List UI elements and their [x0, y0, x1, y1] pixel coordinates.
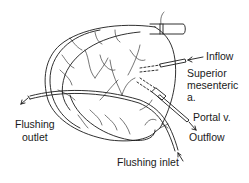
- label-flushing-outlet-1: Flushing: [15, 118, 55, 130]
- label-inflow: Inflow: [206, 50, 233, 62]
- lower-lobe: [70, 95, 155, 141]
- label-flushing-outlet-2: outlet: [22, 131, 48, 143]
- label-superior-mesenteric-1: Superior: [187, 67, 227, 79]
- label-outflow: Outflow: [189, 131, 225, 143]
- organ-perfusion-diagram: Inflow Superior mesenteric a. Portal v. …: [0, 0, 249, 183]
- vessel-branches: [58, 30, 156, 134]
- label-flushing-inlet: Flushing inlet: [117, 156, 179, 168]
- label-portal-vein: Portal v.: [193, 111, 231, 123]
- top-vessel-stump: [150, 12, 185, 34]
- label-superior-mesenteric-2: mesenteric: [187, 79, 238, 91]
- label-superior-mesenteric-3: a.: [187, 91, 196, 103]
- intestine-outline: [45, 25, 176, 141]
